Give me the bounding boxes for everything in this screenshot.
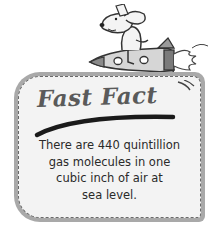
fact-line-2: gas molecules in one <box>19 154 200 171</box>
fast-fact-card-inner: Fast Fact There are 440 quintillion gas … <box>18 76 201 218</box>
fact-line-1: There are 440 quintillion <box>19 137 200 154</box>
fact-line-3: cubic inch of air at <box>19 170 200 187</box>
dog-riding-rocket-icon <box>88 4 208 80</box>
motion-lines-icon <box>176 80 196 96</box>
fast-fact-body: There are 440 quintillion gas molecules … <box>19 137 200 203</box>
title-underline-swoosh <box>25 107 185 141</box>
fact-line-4: sea level. <box>19 187 200 204</box>
